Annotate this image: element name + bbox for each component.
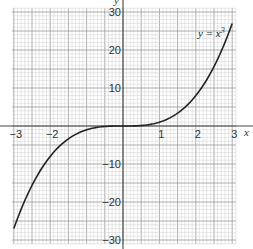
x-tick-label: 1 bbox=[158, 128, 164, 140]
y-tick-label: 30 bbox=[109, 6, 121, 18]
x-tick-label: −2 bbox=[46, 128, 59, 140]
y-tick-label: 10 bbox=[109, 82, 121, 94]
y-axis-label: y bbox=[113, 0, 119, 6]
y-tick-label: −10 bbox=[102, 158, 121, 170]
x-axis-label: x bbox=[243, 126, 249, 138]
y-tick-label: −20 bbox=[102, 196, 121, 208]
cubic-graph: −3−2123302010−10−20−30 y = x3 x y bbox=[0, 0, 253, 249]
x-tick-label: 3 bbox=[231, 128, 237, 140]
y-tick-label: −30 bbox=[102, 234, 121, 246]
y-tick-label: 20 bbox=[109, 44, 121, 56]
x-tick-label: 2 bbox=[195, 128, 201, 140]
equation-label: y = x3 bbox=[197, 26, 225, 39]
x-tick-label: −3 bbox=[10, 128, 23, 140]
